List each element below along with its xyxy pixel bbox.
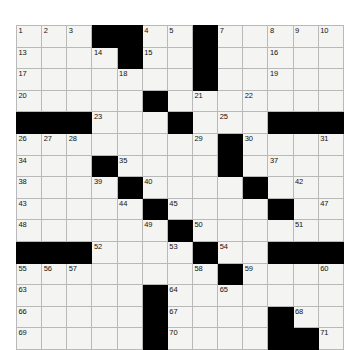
crossword-cell[interactable]: 42 bbox=[293, 177, 318, 199]
crossword-cell[interactable] bbox=[243, 198, 268, 220]
crossword-cell[interactable]: 55 bbox=[17, 263, 42, 285]
crossword-cell[interactable] bbox=[268, 263, 293, 285]
crossword-cell[interactable] bbox=[192, 328, 217, 350]
crossword-cell[interactable]: 57 bbox=[67, 263, 92, 285]
crossword-cell[interactable] bbox=[92, 198, 117, 220]
crossword-cell[interactable] bbox=[92, 306, 117, 328]
crossword-cell[interactable]: 22 bbox=[243, 90, 268, 112]
crossword-cell[interactable]: 56 bbox=[42, 263, 67, 285]
crossword-cell[interactable] bbox=[218, 177, 243, 199]
crossword-cell[interactable] bbox=[243, 306, 268, 328]
crossword-cell[interactable]: 71 bbox=[318, 328, 343, 350]
crossword-cell[interactable] bbox=[293, 69, 318, 91]
crossword-cell[interactable]: 45 bbox=[167, 198, 192, 220]
crossword-cell[interactable] bbox=[142, 241, 167, 263]
crossword-cell[interactable] bbox=[192, 112, 217, 134]
crossword-cell[interactable]: 30 bbox=[243, 133, 268, 155]
crossword-cell[interactable] bbox=[268, 220, 293, 242]
crossword-cell[interactable] bbox=[142, 155, 167, 177]
crossword-cell[interactable] bbox=[293, 90, 318, 112]
crossword-cell[interactable] bbox=[67, 155, 92, 177]
crossword-cell[interactable]: 47 bbox=[318, 198, 343, 220]
crossword-cell[interactable] bbox=[293, 263, 318, 285]
crossword-cell[interactable]: 65 bbox=[218, 285, 243, 307]
crossword-cell[interactable]: 14 bbox=[92, 47, 117, 69]
crossword-cell[interactable]: 31 bbox=[318, 133, 343, 155]
crossword-cell[interactable] bbox=[243, 328, 268, 350]
crossword-cell[interactable] bbox=[142, 263, 167, 285]
crossword-cell[interactable]: 25 bbox=[218, 112, 243, 134]
crossword-cell[interactable]: 53 bbox=[167, 241, 192, 263]
crossword-cell[interactable]: 40 bbox=[142, 177, 167, 199]
crossword-cell[interactable] bbox=[167, 90, 192, 112]
crossword-cell[interactable] bbox=[218, 306, 243, 328]
crossword-cell[interactable] bbox=[117, 90, 142, 112]
crossword-cell[interactable] bbox=[218, 47, 243, 69]
crossword-cell[interactable]: 44 bbox=[117, 198, 142, 220]
crossword-cell[interactable]: 37 bbox=[268, 155, 293, 177]
crossword-cell[interactable]: 15 bbox=[142, 47, 167, 69]
crossword-cell[interactable] bbox=[142, 112, 167, 134]
crossword-cell[interactable] bbox=[117, 241, 142, 263]
crossword-cell[interactable] bbox=[318, 47, 343, 69]
crossword-cell[interactable]: 28 bbox=[67, 133, 92, 155]
crossword-cell[interactable]: 66 bbox=[17, 306, 42, 328]
crossword-cell[interactable] bbox=[117, 285, 142, 307]
crossword-grid[interactable]: 1234578910131415161718192021222325262728… bbox=[16, 25, 344, 350]
crossword-cell[interactable]: 3 bbox=[67, 26, 92, 48]
crossword-cell[interactable]: 58 bbox=[192, 263, 217, 285]
crossword-cell[interactable] bbox=[67, 177, 92, 199]
crossword-cell[interactable] bbox=[92, 220, 117, 242]
crossword-cell[interactable] bbox=[117, 306, 142, 328]
crossword-cell[interactable] bbox=[318, 306, 343, 328]
crossword-cell[interactable] bbox=[243, 241, 268, 263]
crossword-cell[interactable]: 18 bbox=[117, 69, 142, 91]
crossword-cell[interactable] bbox=[117, 220, 142, 242]
crossword-cell[interactable]: 64 bbox=[167, 285, 192, 307]
crossword-cell[interactable] bbox=[42, 47, 67, 69]
crossword-cell[interactable] bbox=[67, 69, 92, 91]
crossword-cell[interactable] bbox=[243, 155, 268, 177]
crossword-cell[interactable] bbox=[218, 198, 243, 220]
crossword-cell[interactable]: 13 bbox=[17, 47, 42, 69]
crossword-cell[interactable]: 4 bbox=[142, 26, 167, 48]
crossword-cell[interactable] bbox=[318, 90, 343, 112]
crossword-cell[interactable]: 49 bbox=[142, 220, 167, 242]
crossword-cell[interactable]: 1 bbox=[17, 26, 42, 48]
crossword-cell[interactable]: 70 bbox=[167, 328, 192, 350]
crossword-cell[interactable] bbox=[92, 285, 117, 307]
crossword-cell[interactable] bbox=[318, 220, 343, 242]
crossword-cell[interactable]: 29 bbox=[192, 133, 217, 155]
crossword-cell[interactable] bbox=[318, 155, 343, 177]
crossword-cell[interactable]: 54 bbox=[218, 241, 243, 263]
crossword-cell[interactable] bbox=[218, 69, 243, 91]
crossword-cell[interactable] bbox=[268, 177, 293, 199]
crossword-cell[interactable] bbox=[243, 69, 268, 91]
crossword-cell[interactable] bbox=[42, 328, 67, 350]
crossword-cell[interactable] bbox=[167, 69, 192, 91]
crossword-cell[interactable] bbox=[167, 47, 192, 69]
crossword-cell[interactable]: 20 bbox=[17, 90, 42, 112]
crossword-cell[interactable]: 27 bbox=[42, 133, 67, 155]
crossword-cell[interactable]: 68 bbox=[293, 306, 318, 328]
crossword-cell[interactable] bbox=[42, 306, 67, 328]
crossword-cell[interactable] bbox=[42, 220, 67, 242]
crossword-cell[interactable] bbox=[67, 220, 92, 242]
crossword-cell[interactable]: 50 bbox=[192, 220, 217, 242]
crossword-cell[interactable] bbox=[293, 285, 318, 307]
crossword-cell[interactable] bbox=[243, 26, 268, 48]
crossword-cell[interactable]: 35 bbox=[117, 155, 142, 177]
crossword-cell[interactable] bbox=[167, 263, 192, 285]
crossword-cell[interactable]: 48 bbox=[17, 220, 42, 242]
crossword-cell[interactable] bbox=[42, 285, 67, 307]
crossword-cell[interactable] bbox=[167, 155, 192, 177]
crossword-cell[interactable] bbox=[167, 177, 192, 199]
crossword-cell[interactable] bbox=[167, 133, 192, 155]
crossword-cell[interactable] bbox=[67, 328, 92, 350]
crossword-cell[interactable] bbox=[67, 198, 92, 220]
crossword-cell[interactable] bbox=[243, 285, 268, 307]
crossword-cell[interactable]: 69 bbox=[17, 328, 42, 350]
crossword-cell[interactable] bbox=[117, 133, 142, 155]
crossword-cell[interactable] bbox=[192, 285, 217, 307]
crossword-cell[interactable]: 9 bbox=[293, 26, 318, 48]
